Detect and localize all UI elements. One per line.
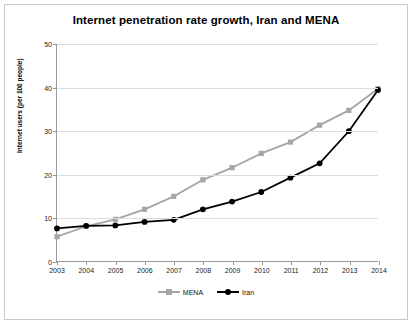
x-tick-mark — [116, 261, 117, 265]
y-tick-label: 40 — [44, 84, 52, 91]
x-tick-mark — [57, 261, 58, 265]
data-point-mena — [317, 123, 322, 128]
y-tick-label: 0 — [48, 259, 52, 266]
chart-legend: MENAIran — [0, 288, 412, 296]
legend-item-mena[interactable]: MENA — [158, 288, 203, 296]
data-point-iran — [54, 226, 60, 232]
x-tick-mark — [262, 261, 263, 265]
x-tick-label: 2004 — [78, 267, 94, 274]
gridline — [57, 88, 378, 89]
data-point-iran — [142, 219, 148, 225]
x-tick-label: 2010 — [254, 267, 270, 274]
y-axis-title: Internet users (per 100 people) — [16, 58, 23, 153]
data-point-iran — [112, 223, 118, 229]
data-point-mena — [288, 139, 293, 144]
series-line-iran — [57, 90, 378, 228]
x-tick-label: 2014 — [371, 267, 387, 274]
gridline — [57, 218, 378, 219]
x-tick-mark — [174, 261, 175, 265]
gridline — [57, 44, 378, 45]
y-tick-mark — [53, 44, 57, 45]
x-tick-mark — [86, 261, 87, 265]
chart-title: Internet penetration rate growth, Iran a… — [0, 14, 412, 26]
data-point-mena — [259, 151, 264, 156]
x-tick-label: 2007 — [166, 267, 182, 274]
data-point-mena — [54, 234, 59, 239]
gridline — [57, 175, 378, 176]
data-point-mena — [346, 108, 351, 113]
data-point-iran — [83, 223, 89, 229]
data-point-mena — [171, 194, 176, 199]
data-point-mena — [142, 207, 147, 212]
x-tick-label: 2011 — [284, 267, 299, 274]
x-tick-label: 2013 — [342, 267, 358, 274]
data-point-iran — [258, 189, 264, 195]
gridline — [57, 131, 378, 132]
y-tick-mark — [53, 218, 57, 219]
legend-swatch-square-icon — [158, 288, 180, 296]
x-tick-label: 2008 — [196, 267, 212, 274]
series-line-mena — [57, 89, 378, 237]
x-tick-mark — [291, 261, 292, 265]
legend-item-iran[interactable]: Iran — [217, 288, 254, 296]
data-point-iran — [229, 199, 235, 205]
x-tick-label: 2006 — [137, 267, 153, 274]
x-tick-mark — [203, 261, 204, 265]
x-tick-label: 2009 — [225, 267, 241, 274]
data-point-iran — [200, 206, 206, 212]
x-tick-label: 2003 — [49, 267, 65, 274]
x-tick-mark — [233, 261, 234, 265]
legend-label: MENA — [183, 289, 203, 296]
y-tick-label: 20 — [44, 171, 52, 178]
x-tick-mark — [145, 261, 146, 265]
data-point-iran — [317, 160, 323, 166]
y-tick-mark — [53, 175, 57, 176]
y-tick-label: 30 — [44, 128, 52, 135]
data-point-mena — [200, 177, 205, 182]
plot-area: 0102030405020032004200520062007200820092… — [56, 44, 378, 262]
y-tick-label: 10 — [44, 215, 52, 222]
x-tick-mark — [320, 261, 321, 265]
y-tick-mark — [53, 131, 57, 132]
x-tick-mark — [379, 261, 380, 265]
data-point-mena — [230, 165, 235, 170]
legend-swatch-circle-icon — [217, 288, 239, 296]
series-layer — [57, 44, 378, 261]
chart-container: Internet penetration rate growth, Iran a… — [0, 0, 412, 324]
x-tick-label: 2005 — [108, 267, 124, 274]
y-tick-mark — [53, 88, 57, 89]
y-tick-label: 50 — [44, 41, 52, 48]
legend-label: Iran — [242, 289, 254, 296]
x-tick-mark — [350, 261, 351, 265]
x-tick-label: 2012 — [313, 267, 329, 274]
